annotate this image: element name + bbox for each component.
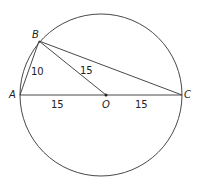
center-point xyxy=(105,94,108,97)
label-a: A xyxy=(8,89,16,100)
length-bo: 15 xyxy=(80,65,93,76)
circle-diagram: B A C O 10 15 15 15 xyxy=(0,0,203,186)
label-b: B xyxy=(32,29,39,40)
label-o: O xyxy=(102,99,110,110)
segment-bc xyxy=(39,41,182,95)
segment-bo xyxy=(39,41,106,95)
label-c: C xyxy=(184,89,191,100)
length-ab: 10 xyxy=(31,66,44,77)
length-ao: 15 xyxy=(51,99,64,110)
length-oc: 15 xyxy=(135,99,148,110)
